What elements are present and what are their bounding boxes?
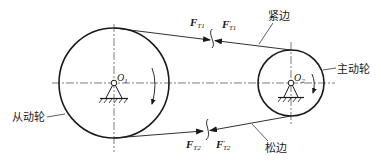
driven-label-leader [47, 114, 65, 117]
force-label-ft2: FT2 [185, 138, 201, 152]
slack-side-label: 松边 [265, 141, 287, 155]
driven-pulley-label: 从动轮 [12, 110, 45, 124]
driving-label-leader [323, 68, 336, 70]
driven-pulley: O1 [59, 24, 169, 152]
tight-side-leader [259, 23, 273, 44]
force-label-ft1: FT1 [189, 16, 205, 30]
slack-side-belt [114, 116, 291, 141]
driving-rotation-arrow-icon [312, 74, 314, 93]
slack-belt-break-icon [206, 119, 209, 140]
belt-drive-diagram: O1 O2 FT1 [0, 0, 381, 165]
force-label-ft1-prime: F′T1 [221, 18, 236, 32]
slack-side-leader [252, 124, 268, 141]
tight-side-label: 紧边 [268, 10, 290, 23]
tight-belt-break-icon [211, 29, 214, 48]
driving-pulley-label: 主动轮 [337, 62, 370, 76]
force-label-ft2-prime: F′T2 [215, 138, 231, 152]
driven-rotation-arrow-icon [152, 68, 155, 104]
